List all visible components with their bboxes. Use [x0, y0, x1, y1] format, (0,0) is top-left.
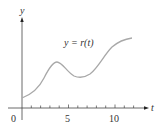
x-tick-label-5: 5	[65, 113, 70, 124]
chart: y t 0 5 10 y = r(t)	[0, 0, 162, 128]
x-axis-arrow-icon	[144, 106, 149, 109]
x-tick-label-10: 10	[109, 113, 119, 124]
x-tick-label-0: 0	[11, 113, 16, 124]
y-axis-arrow-icon	[20, 17, 23, 22]
x-axis-label: t	[151, 102, 154, 113]
y-axis-label: y	[19, 5, 25, 16]
x-ticks	[31, 105, 133, 109]
curve-label: y = r(t)	[63, 37, 94, 49]
